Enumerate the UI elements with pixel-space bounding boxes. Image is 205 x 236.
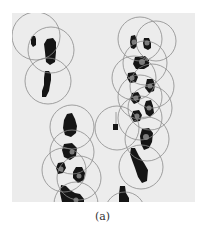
figure-caption: (a) bbox=[0, 210, 205, 223]
blob bbox=[113, 124, 118, 130]
figure: (a) bbox=[0, 0, 205, 236]
center-dot bbox=[139, 59, 145, 65]
center-dot bbox=[77, 174, 82, 179]
panel-background bbox=[12, 13, 195, 202]
blob-detection-plot bbox=[12, 13, 195, 202]
figure-panel-image bbox=[12, 13, 195, 202]
